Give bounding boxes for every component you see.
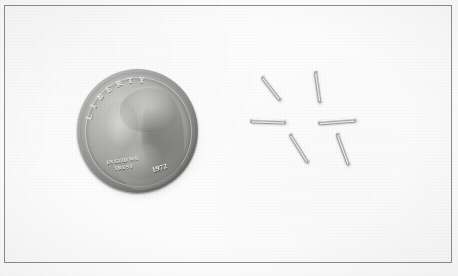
pin-3	[250, 118, 286, 123]
coin-liberty-letter: R	[114, 78, 123, 89]
coin-liberty-letter: B	[94, 92, 104, 102]
coin-liberty-letter: I	[88, 103, 97, 110]
coin-liberty-letter: Y	[138, 75, 144, 84]
photograph: LIBERTY IN GOD WE TRUST 1972 US dime coi…	[0, 0, 458, 276]
us-dime-coin: LIBERTY IN GOD WE TRUST 1972	[77, 69, 201, 195]
photo-frame-border	[4, 5, 452, 263]
coin-liberty-letter: L	[83, 113, 93, 121]
coin-liberty-letter: E	[103, 84, 113, 94]
coin-liberty-letter: T	[126, 76, 133, 86]
coin-face: LIBERTY IN GOD WE TRUST 1972	[80, 72, 195, 190]
